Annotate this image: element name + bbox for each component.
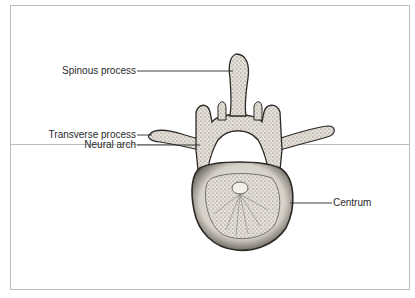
transverse-process-left <box>148 130 200 150</box>
label-centrum: Centrum <box>333 197 371 209</box>
transverse-process-right <box>275 126 334 150</box>
label-neural-arch: Neural arch <box>84 139 136 151</box>
spinous-process <box>229 54 248 116</box>
vertebra-illustration <box>0 0 415 298</box>
centrum-center <box>232 182 248 194</box>
label-spinous-process: Spinous process <box>62 65 136 77</box>
